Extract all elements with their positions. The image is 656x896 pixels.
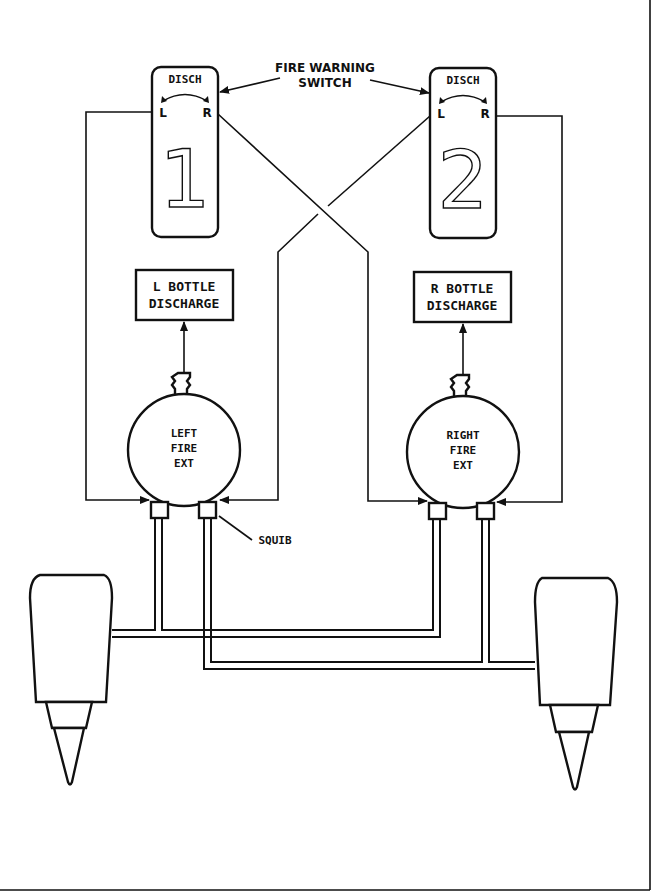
right-engine xyxy=(535,578,617,790)
left-bottle-line3: EXT xyxy=(174,457,194,470)
squib-callout: SQUIB xyxy=(219,516,292,547)
switch-2-right-label: R xyxy=(480,107,489,121)
callout-line1: FIRE WARNING xyxy=(275,61,375,75)
fire-warning-switch-2[interactable]: DISCH L R 2 xyxy=(430,68,496,238)
arrow-icon xyxy=(220,78,280,92)
fire-warning-switch-1[interactable]: DISCH L R 1 xyxy=(152,67,218,237)
r-bottle-line2: DISCHARGE xyxy=(427,298,497,313)
right-bottle-line3: EXT xyxy=(453,459,473,472)
switch-1-disch-label: DISCH xyxy=(168,73,201,86)
switch-2-left-label: L xyxy=(437,107,445,121)
right-bottle-line2: FIRE xyxy=(450,444,477,457)
arrow-icon xyxy=(370,80,429,93)
r-bottle-discharge-light: R BOTTLE DISCHARGE xyxy=(414,272,511,322)
left-fire-extinguisher-bottle: LEFT FIRE EXT xyxy=(128,373,240,518)
switch-1-left-label: L xyxy=(159,106,167,120)
r-bottle-line1: R BOTTLE xyxy=(431,281,494,296)
callout-line2: SWITCH xyxy=(298,76,351,90)
fire-extinguisher-diagram: FIRE WARNING SWITCH DISCH L R 1 DISCH L … xyxy=(0,0,656,896)
l-bottle-line2: DISCHARGE xyxy=(149,296,219,311)
switch-2-disch-label: DISCH xyxy=(446,74,479,87)
discharge-pipes xyxy=(112,518,535,669)
l-bottle-line1: L BOTTLE xyxy=(153,279,216,294)
page-frame xyxy=(0,0,650,890)
left-bottle-line2: FIRE xyxy=(171,442,198,455)
switch-1-number: 1 xyxy=(160,133,211,226)
right-fire-extinguisher-bottle: RIGHT FIRE EXT xyxy=(407,375,519,519)
switch-2-number: 2 xyxy=(438,134,489,227)
l-bottle-discharge-light: L BOTTLE DISCHARGE xyxy=(136,270,233,320)
squib-label: SQUIB xyxy=(258,534,291,547)
fire-warning-switch-callout: FIRE WARNING SWITCH xyxy=(220,61,429,93)
left-bottle-line1: LEFT xyxy=(171,427,198,440)
switch-1-right-label: R xyxy=(202,106,211,120)
right-bottle-line1: RIGHT xyxy=(446,429,479,442)
left-engine xyxy=(30,575,112,785)
